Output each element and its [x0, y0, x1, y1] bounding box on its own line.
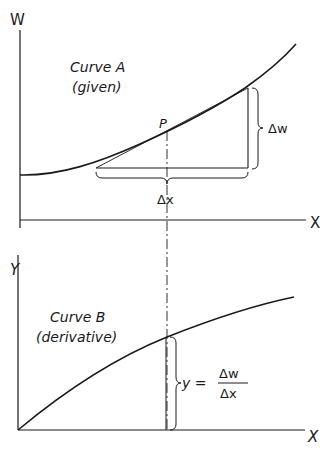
formula-denominator: Δx: [220, 386, 237, 401]
bottom-x-axis-label: X: [307, 428, 319, 446]
tangent-line: [96, 88, 248, 168]
top-graph: W X Curve A (given) P Δw Δx: [10, 11, 320, 232]
w-axis-label: W: [10, 11, 25, 29]
formula-numerator: Δw: [219, 366, 239, 381]
formula-lhs: y =: [181, 375, 206, 391]
derivative-diagram: W X Curve A (given) P Δw Δx Y X Curve B …: [0, 0, 335, 451]
delta-x-brace: [96, 172, 248, 184]
y-axis-label: Y: [10, 261, 21, 279]
delta-x-label: Δx: [157, 192, 174, 207]
curve-b-subtitle: (derivative): [36, 329, 117, 345]
y-brace: [170, 337, 181, 430]
bottom-graph: Y X Curve B (derivative) y = Δw Δx: [10, 255, 319, 446]
delta-w-brace: [252, 88, 263, 169]
curve-a: [20, 44, 296, 175]
curve-a-subtitle: (given): [72, 79, 121, 95]
curve-a-title: Curve A: [70, 59, 125, 75]
delta-w-label: Δw: [268, 121, 288, 136]
curve-b-title: Curve B: [50, 309, 105, 325]
point-p-label: P: [159, 116, 167, 131]
top-x-axis-label: X: [310, 214, 320, 232]
